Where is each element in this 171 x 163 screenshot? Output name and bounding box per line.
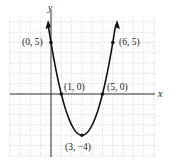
y-axis-label: y (47, 2, 53, 13)
label-5-0: (5, 0) (107, 82, 128, 93)
data-point (80, 133, 84, 137)
x-axis-label: x (157, 88, 163, 99)
parabola-graph: x y (0, 5) (6, 5) (1, 0) (5, 0) (3, −4) (0, 0, 171, 163)
data-point (60, 92, 64, 96)
arrow-left-icon (46, 20, 52, 29)
label-1-0: (1, 0) (64, 82, 85, 93)
data-point (101, 92, 105, 96)
label-6-5: (6, 5) (119, 37, 140, 48)
label-0-5: (0, 5) (22, 37, 43, 48)
data-point (111, 41, 115, 45)
data-point (49, 41, 53, 45)
label-3-neg4: (3, −4) (65, 142, 91, 153)
